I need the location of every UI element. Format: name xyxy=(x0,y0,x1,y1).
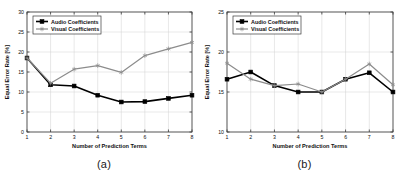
y-tick-label: 20 xyxy=(18,49,24,55)
y-tick-label: 30 xyxy=(18,9,24,15)
panel-a-caption: (a) xyxy=(0,158,200,170)
panel-a: 05101520253012345678Number of Prediction… xyxy=(0,0,200,184)
x-tick-label: 2 xyxy=(249,134,252,140)
chart-b-svg: 1015202512345678Number of Prediction Ter… xyxy=(200,0,401,160)
legend: Audio CoefficientsVisual Coefficients xyxy=(233,16,301,34)
x-tick-label: 7 xyxy=(368,134,371,140)
chart-a: 05101520253012345678Number of Prediction… xyxy=(0,0,200,160)
panel-b-caption: (b) xyxy=(200,158,401,170)
y-tick-label: 25 xyxy=(218,9,224,15)
chart-b: 1015202512345678Number of Prediction Ter… xyxy=(200,0,401,160)
x-tick-label: 7 xyxy=(167,134,170,140)
legend-label: Audio Coefficients xyxy=(251,19,299,25)
legend-label: Audio Coefficients xyxy=(51,19,99,25)
y-tick-label: 10 xyxy=(18,89,24,95)
legend-label: Visual Coefficients xyxy=(251,26,299,32)
legend: Audio CoefficientsVisual Coefficients xyxy=(33,16,101,34)
x-tick-label: 4 xyxy=(297,134,300,140)
y-axis-title: Equal Error Rate [%] xyxy=(4,45,10,100)
x-tick-label: 8 xyxy=(191,134,194,140)
x-tick-label: 1 xyxy=(26,134,29,140)
x-tick-label: 1 xyxy=(226,134,229,140)
y-tick-label: 10 xyxy=(218,129,224,135)
legend-label: Visual Coefficients xyxy=(51,26,99,32)
x-tick-label: 5 xyxy=(120,134,123,140)
x-tick-label: 5 xyxy=(320,134,323,140)
panel-b: 1015202512345678Number of Prediction Ter… xyxy=(200,0,401,184)
x-tick-label: 3 xyxy=(73,134,76,140)
x-tick-label: 4 xyxy=(96,134,99,140)
figure-two-panel-line-charts: 05101520253012345678Number of Prediction… xyxy=(0,0,401,184)
y-tick-label: 15 xyxy=(18,69,24,75)
x-tick-label: 8 xyxy=(392,134,395,140)
chart-a-svg: 05101520253012345678Number of Prediction… xyxy=(0,0,200,160)
x-tick-label: 3 xyxy=(273,134,276,140)
x-axis-title: Number of Prediction Terms xyxy=(72,143,147,149)
x-tick-label: 2 xyxy=(49,134,52,140)
x-tick-label: 6 xyxy=(344,134,347,140)
y-tick-label: 25 xyxy=(18,29,24,35)
y-axis-title: Equal Error Rate [%] xyxy=(204,45,210,100)
y-tick-label: 15 xyxy=(218,89,224,95)
x-tick-label: 6 xyxy=(143,134,146,140)
y-tick-label: 0 xyxy=(21,129,24,135)
y-tick-label: 20 xyxy=(218,49,224,55)
x-axis-title: Number of Prediction Terms xyxy=(273,143,348,149)
y-tick-label: 5 xyxy=(21,109,24,115)
